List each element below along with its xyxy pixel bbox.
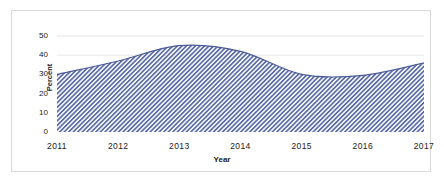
plot-area: 01020304050 2011201220132014201520162017… [12,11,432,173]
x-tick-label: 2012 [98,141,138,151]
x-axis-title: Year [12,155,432,164]
y-tick-label: 0 [22,128,48,136]
chart-figure-frame: 01020304050 2011201220132014201520162017… [11,10,431,172]
x-tick-label: 2017 [404,141,444,151]
x-tick-label: 2015 [282,141,322,151]
y-axis-title: Percent [45,48,54,108]
x-tick-label: 2014 [221,141,261,151]
y-tick-label: 50 [22,32,48,40]
area-series-fill [57,45,424,132]
y-tick-label: 10 [22,109,48,117]
x-tick-label: 2013 [159,141,199,151]
x-tick-label: 2011 [37,141,77,151]
x-tick-label: 2016 [343,141,383,151]
